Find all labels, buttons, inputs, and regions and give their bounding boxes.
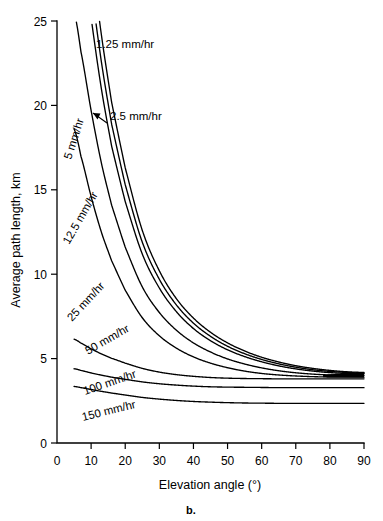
x-axis-title: Elevation angle (°) <box>159 478 261 492</box>
curve-label-50-mm-hr: 50 mm/hr <box>83 322 131 357</box>
y-tick-label: 0 <box>40 437 47 451</box>
x-tick-label: 40 <box>187 454 201 468</box>
y-tick-label: 5 <box>40 352 47 366</box>
curve-1-25-mm-hr <box>100 21 364 372</box>
y-axis-ticks <box>51 21 57 443</box>
chart-svg: 0510152025 0102030405060708090 1.25 mm/h… <box>0 0 383 521</box>
x-axis-tick-labels: 0102030405060708090 <box>54 454 371 468</box>
curve-150-mm-hr <box>74 386 364 403</box>
y-tick-label: 10 <box>34 268 48 282</box>
curve-12-5-mm-hr <box>76 22 364 375</box>
x-tick-label: 60 <box>255 454 269 468</box>
annotation-leader-2p5 <box>93 113 107 123</box>
figure-caption: b. <box>186 504 196 516</box>
curve-label-25-mm-hr: 25 mm/hr <box>65 280 107 324</box>
x-tick-label: 90 <box>357 454 371 468</box>
figure-panel: 0510152025 0102030405060708090 1.25 mm/h… <box>0 0 383 521</box>
y-tick-label: 15 <box>34 183 48 197</box>
curve-2-5-mm-hr <box>96 24 364 373</box>
leader-arrowhead <box>93 113 101 120</box>
curve-label-12-5-mm-hr: 12.5 mm/hr <box>60 189 100 246</box>
data-curves <box>74 21 364 403</box>
x-tick-label: 20 <box>119 454 133 468</box>
x-tick-label: 50 <box>221 454 235 468</box>
x-tick-label: 70 <box>289 454 303 468</box>
curve-label-2-5-mm-hr: 2.5 mm/hr <box>110 110 162 122</box>
y-tick-label: 25 <box>34 15 48 29</box>
x-tick-label: 30 <box>153 454 167 468</box>
curve-label-150-mm-hr: 150 mm/hr <box>81 398 137 423</box>
y-tick-label: 20 <box>34 99 48 113</box>
y-axis-tick-labels: 0510152025 <box>34 15 48 451</box>
y-axis-title: Average path length, km <box>9 172 23 307</box>
curve-label-1-25-mm-hr: 1.25 mm/hr <box>96 38 154 50</box>
x-tick-label: 0 <box>54 454 61 468</box>
x-axis-ticks <box>91 443 364 449</box>
curve-label-5-mm-hr: 5 mm/hr <box>61 117 85 161</box>
x-tick-label: 80 <box>323 454 337 468</box>
x-tick-label: 10 <box>84 454 98 468</box>
